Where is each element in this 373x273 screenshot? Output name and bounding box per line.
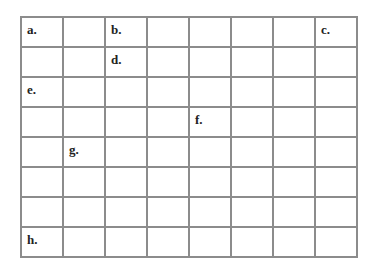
- grid-cell: [147, 47, 189, 77]
- grid-cell: a.: [21, 17, 63, 47]
- grid-cell: [147, 197, 189, 227]
- grid-cell: c.: [315, 17, 357, 47]
- grid-cell: g.: [63, 137, 105, 167]
- grid-row: a. b. c.: [21, 17, 357, 47]
- grid-row: e.: [21, 77, 357, 107]
- grid-cell: [63, 227, 105, 257]
- grid-cell: [315, 167, 357, 197]
- grid-cell: [21, 137, 63, 167]
- grid-cell: [273, 47, 315, 77]
- grid-cell: [273, 197, 315, 227]
- grid-cell: [231, 197, 273, 227]
- grid-cell: [273, 77, 315, 107]
- grid-cell: [189, 137, 231, 167]
- grid-cell: [63, 197, 105, 227]
- grid-cell: [231, 47, 273, 77]
- grid-cell: [105, 107, 147, 137]
- grid-cell: [189, 197, 231, 227]
- grid-cell: h.: [21, 227, 63, 257]
- letter-grid: a. b. c. d. e.: [20, 16, 358, 258]
- grid-cell: [21, 107, 63, 137]
- grid-row: [21, 197, 357, 227]
- grid-cell: [147, 167, 189, 197]
- grid-cell: [315, 77, 357, 107]
- grid-cell: [105, 137, 147, 167]
- grid-row: f.: [21, 107, 357, 137]
- grid-cell: [63, 17, 105, 47]
- grid-cell: [231, 227, 273, 257]
- grid-cell: [105, 77, 147, 107]
- grid-cell: [147, 107, 189, 137]
- grid-cell: [63, 167, 105, 197]
- grid-cell: [189, 47, 231, 77]
- grid-cell: [105, 167, 147, 197]
- grid-cell: [315, 107, 357, 137]
- grid-cell: [231, 77, 273, 107]
- grid-cell: [189, 167, 231, 197]
- grid-cell: f.: [189, 107, 231, 137]
- grid-cell: [21, 167, 63, 197]
- grid-row: d.: [21, 47, 357, 77]
- grid-cell: [273, 227, 315, 257]
- grid-cell: [231, 167, 273, 197]
- grid-cell: [21, 47, 63, 77]
- grid-row: h.: [21, 227, 357, 257]
- grid-cell: [315, 137, 357, 167]
- grid-cell: [147, 77, 189, 107]
- grid-cell: [63, 107, 105, 137]
- grid-row: [21, 167, 357, 197]
- grid-cell: [189, 17, 231, 47]
- grid-cell: [273, 137, 315, 167]
- grid-cell: e.: [21, 77, 63, 107]
- grid-cell: [315, 47, 357, 77]
- grid-cell: [231, 137, 273, 167]
- grid-cell: [63, 47, 105, 77]
- grid-cell: [105, 227, 147, 257]
- grid-row: g.: [21, 137, 357, 167]
- grid-cell: [315, 197, 357, 227]
- grid-cell: [231, 17, 273, 47]
- grid-cell: [21, 197, 63, 227]
- grid-cell: [315, 227, 357, 257]
- grid-cell: [105, 197, 147, 227]
- grid-cell: [273, 107, 315, 137]
- grid-cell: [189, 77, 231, 107]
- grid-cell: [273, 167, 315, 197]
- grid-cell: [147, 17, 189, 47]
- grid-cell: [231, 107, 273, 137]
- grid-cell: [63, 77, 105, 107]
- grid-cell: [273, 17, 315, 47]
- grid-cell: b.: [105, 17, 147, 47]
- grid-cell: [147, 227, 189, 257]
- grid-cell: [189, 227, 231, 257]
- grid-cell: [147, 137, 189, 167]
- grid-cell: d.: [105, 47, 147, 77]
